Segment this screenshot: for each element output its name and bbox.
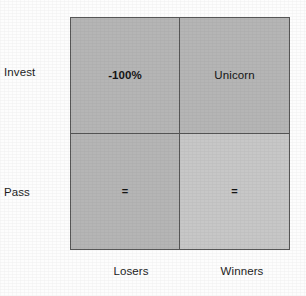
column-label-losers: Losers: [85, 265, 177, 278]
column-label-winners: Winners: [196, 265, 288, 278]
matrix-cell-label-invest-losers: -100%: [108, 68, 142, 82]
row-label-pass: Pass: [4, 186, 64, 199]
matrix-cell-label-pass-winners: =: [231, 184, 237, 198]
matrix-cell-pass-losers: =: [71, 134, 180, 250]
matrix-cell-pass-winners: =: [180, 134, 289, 250]
matrix-cell-label-invest-winners: Unicorn: [214, 68, 254, 82]
decision-matrix-figure: Invest Pass -100% Unicorn = = Losers Win…: [0, 0, 306, 296]
matrix-cell-invest-winners: Unicorn: [180, 18, 289, 134]
matrix-cell-label-pass-losers: =: [122, 184, 128, 198]
matrix-cell-invest-losers: -100%: [71, 18, 180, 134]
row-label-invest: Invest: [4, 66, 64, 79]
matrix-grid: -100% Unicorn = =: [70, 17, 290, 250]
